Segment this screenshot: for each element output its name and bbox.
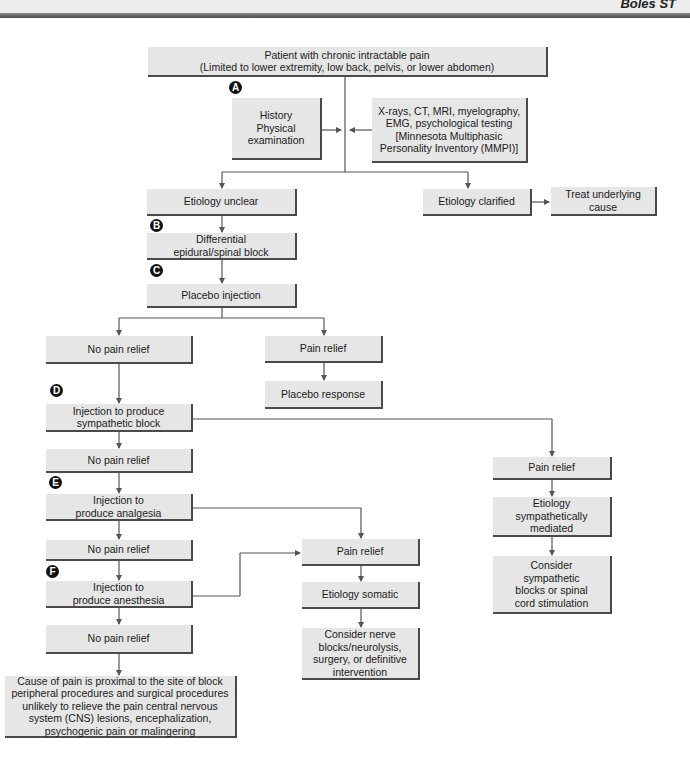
step-badge-f: F — [46, 565, 59, 578]
sympathetic-injection-node: Injection to produce sympathetic block — [46, 404, 193, 432]
no-relief-node-3: No pain relief — [46, 540, 193, 561]
history-exam-node: History Physical examination — [232, 98, 322, 160]
step-badge-e: E — [49, 476, 62, 489]
consider-sympathetic-node: Consider sympathetic blocks or spinal co… — [493, 556, 612, 614]
treat-underlying-node: Treat underlying cause — [551, 187, 657, 216]
step-badge-c: C — [150, 264, 163, 277]
placebo-injection-node: Placebo injection — [147, 284, 297, 308]
consider-nerve-blocks-node: Consider nerve blocks/neurolysis, surger… — [302, 628, 420, 680]
anesthesia-injection-node: Injection to produce anesthesia — [46, 581, 193, 608]
etiology-unclear-node: Etiology unclear — [147, 189, 297, 216]
no-relief-node-4: No pain relief — [46, 625, 193, 654]
etiology-clarified-node: Etiology clarified — [423, 189, 532, 216]
diagnostic-tests-node: X-rays, CT, MRI, myelography, EMG, psych… — [372, 98, 528, 163]
step-badge-a: A — [229, 81, 242, 94]
step-badge-d: D — [50, 384, 63, 397]
placebo-pain-relief-node: Pain relief — [265, 336, 383, 363]
etiology-sympathetic-node: Etiology sympathetically mediated — [493, 497, 612, 537]
start-node: Patient with chronic intractable pain (L… — [148, 47, 548, 77]
etiology-somatic-node: Etiology somatic — [302, 582, 420, 609]
step-badge-b: B — [150, 219, 163, 232]
no-relief-node-2: No pain relief — [46, 449, 193, 473]
placebo-response-node: Placebo response — [265, 381, 383, 409]
no-relief-node-1: No pain relief — [46, 336, 193, 364]
differential-block-node: Differential epidural/spinal block — [147, 233, 297, 260]
somatic-pain-relief-node: Pain relief — [302, 539, 420, 566]
central-cause-node: Cause of pain is proximal to the site of… — [5, 676, 237, 738]
sympathetic-pain-relief-node: Pain relief — [493, 457, 612, 480]
analgesia-injection-node: Injection to produce analgesia — [46, 494, 193, 521]
